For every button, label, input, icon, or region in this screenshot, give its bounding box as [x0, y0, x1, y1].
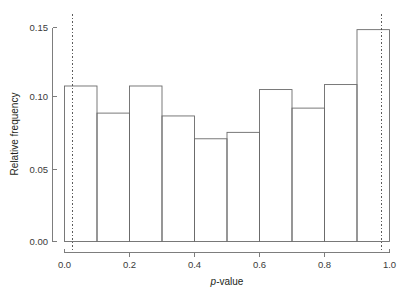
x-tick-label: 0.0 — [58, 259, 71, 270]
y-axis-title: Relative frequency — [9, 93, 20, 176]
y-tick-label: 0.15 — [30, 22, 49, 33]
histogram-figure: 0.15 0.10 0.05 0.00 Relative frequency — [0, 0, 405, 290]
y-tick-label: 0.10 — [30, 91, 49, 102]
x-tick-label: 0.4 — [188, 259, 201, 270]
plot-background — [0, 0, 405, 290]
pvalue-histogram-plot: 0.15 0.10 0.05 0.00 Relative frequency — [0, 0, 405, 290]
y-tick-label: 0.05 — [30, 164, 49, 175]
x-tick-label: 0.8 — [318, 259, 331, 270]
x-axis-title-rest: -value — [216, 276, 244, 287]
y-tick-label: 0.00 — [30, 236, 49, 247]
x-tick-label: 1.0 — [383, 259, 396, 270]
x-axis-title: p-value — [210, 276, 244, 287]
x-tick-label: 0.2 — [123, 259, 136, 270]
x-tick-label: 0.6 — [253, 259, 266, 270]
